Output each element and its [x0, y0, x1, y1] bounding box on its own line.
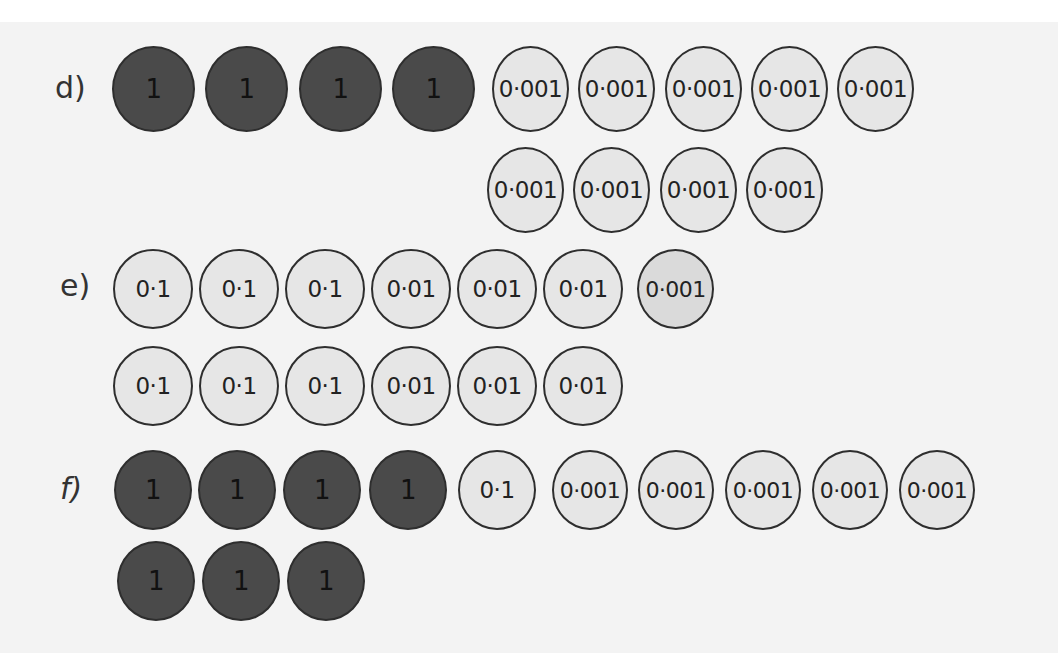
place-value-counter-0-001: 0·001	[725, 450, 801, 530]
place-value-counter-0-01: 0·01	[543, 249, 623, 329]
place-value-counter-0-1: 0·1	[285, 249, 365, 329]
top-margin	[0, 0, 1058, 22]
place-value-counter-0-1: 0·1	[458, 450, 536, 530]
question-label: e)	[60, 271, 90, 301]
place-value-counter-0-001: 0·001	[573, 147, 650, 233]
place-value-counter-0-001: 0·001	[751, 46, 828, 132]
place-value-counter-1: 1	[202, 541, 280, 621]
place-value-counter-0-1: 0·1	[285, 346, 365, 426]
question-label: f)	[60, 474, 82, 504]
place-value-counter-0-01: 0·01	[543, 346, 623, 426]
place-value-counter-0-001: 0·001	[746, 147, 823, 233]
place-value-counter-1: 1	[117, 541, 195, 621]
place-value-counter-1: 1	[283, 450, 361, 530]
place-value-counter-1: 1	[392, 46, 475, 132]
place-value-counter-0-01: 0·01	[457, 346, 537, 426]
question-label: d)	[55, 73, 86, 103]
place-value-counter-0-001: 0·001	[660, 147, 737, 233]
place-value-counter-0-001: 0·001	[492, 46, 569, 132]
place-value-counter-1: 1	[287, 541, 365, 621]
place-value-counter-0-001: 0·001	[637, 249, 714, 329]
place-value-counter-0-01: 0·01	[371, 249, 451, 329]
place-value-counter-1: 1	[369, 450, 447, 530]
place-value-counter-0-001: 0·001	[899, 450, 975, 530]
place-value-counter-0-1: 0·1	[199, 346, 279, 426]
place-value-counter-0-1: 0·1	[113, 346, 193, 426]
place-value-counter-1: 1	[112, 46, 195, 132]
place-value-counter-0-001: 0·001	[812, 450, 888, 530]
place-value-counter-0-001: 0·001	[837, 46, 914, 132]
place-value-counter-0-1: 0·1	[113, 249, 193, 329]
place-value-counter-0-001: 0·001	[552, 450, 628, 530]
place-value-counter-0-001: 0·001	[665, 46, 742, 132]
place-value-counter-1: 1	[114, 450, 192, 530]
place-value-counter-0-001: 0·001	[487, 147, 564, 233]
place-value-counter-1: 1	[205, 46, 288, 132]
place-value-counter-0-1: 0·1	[199, 249, 279, 329]
place-value-counter-1: 1	[198, 450, 276, 530]
place-value-counter-1: 1	[299, 46, 382, 132]
place-value-counter-0-01: 0·01	[371, 346, 451, 426]
place-value-counter-0-001: 0·001	[638, 450, 714, 530]
place-value-counter-0-01: 0·01	[457, 249, 537, 329]
place-value-counter-0-001: 0·001	[578, 46, 655, 132]
